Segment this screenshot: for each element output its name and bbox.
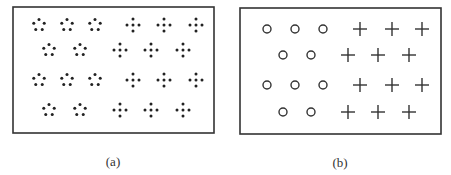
five-dot-pentagon-icon — [88, 18, 101, 31]
five-dot-cross-icon — [157, 73, 172, 88]
five-dot-pentagon-icon — [32, 18, 45, 31]
panel-a-grouping-by-dot-arrangement — [13, 7, 214, 133]
circle-icon — [263, 25, 271, 33]
five-dot-cross-icon — [126, 18, 141, 33]
five-dot-cross-icon — [113, 43, 128, 58]
figure-canvas — [0, 0, 451, 175]
plus-icon — [353, 78, 367, 92]
plus-icon — [341, 105, 355, 119]
caption-b: (b) — [332, 155, 347, 171]
circle-icon — [307, 51, 315, 59]
plus-icon — [371, 105, 385, 119]
five-dot-cross-icon — [176, 43, 191, 58]
panel-frame — [13, 7, 214, 133]
plus-icon — [402, 48, 416, 62]
caption-a: (a) — [106, 154, 120, 170]
plus-icon — [353, 22, 367, 36]
five-dot-pentagon-icon — [60, 18, 73, 31]
five-dot-pentagon-icon — [60, 73, 73, 86]
five-dot-cross-icon — [157, 18, 172, 33]
plus-icon — [385, 78, 399, 92]
five-dot-cross-icon — [144, 103, 159, 118]
panel-b-grouping-by-shape — [240, 8, 441, 134]
five-dot-pentagon-icon — [73, 43, 86, 56]
five-dot-pentagon-icon — [42, 103, 55, 116]
circle-icon — [307, 108, 315, 116]
circle-icon — [291, 81, 299, 89]
five-dot-pentagon-icon — [32, 73, 45, 86]
plus-icon — [402, 105, 416, 119]
circle-icon — [319, 25, 327, 33]
plus-icon — [415, 78, 429, 92]
five-dot-cross-icon — [189, 18, 204, 33]
circle-icon — [319, 81, 327, 89]
plus-icon — [371, 48, 385, 62]
five-dot-cross-icon — [113, 103, 128, 118]
plus-icon — [385, 22, 399, 36]
five-dot-cross-icon — [176, 103, 191, 118]
five-dot-pentagon-icon — [73, 103, 86, 116]
five-dot-pentagon-icon — [42, 43, 55, 56]
plus-icon — [341, 48, 355, 62]
circle-icon — [291, 25, 299, 33]
circle-icon — [263, 81, 271, 89]
five-dot-pentagon-icon — [88, 73, 101, 86]
plus-icon — [415, 22, 429, 36]
five-dot-cross-icon — [189, 73, 204, 88]
circle-icon — [279, 108, 287, 116]
five-dot-cross-icon — [144, 43, 159, 58]
five-dot-cross-icon — [126, 73, 141, 88]
circle-icon — [279, 51, 287, 59]
